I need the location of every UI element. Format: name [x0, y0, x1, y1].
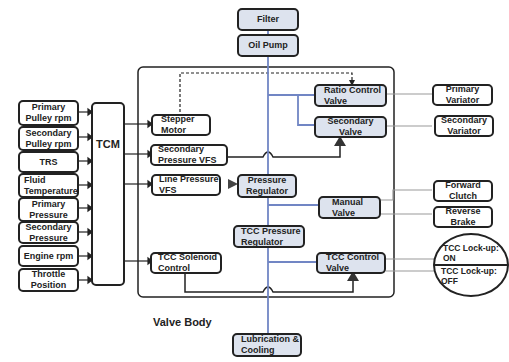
- sensor-primary-pressure: Primary Pressure: [18, 197, 79, 222]
- sensor-throttle-position: Throttle Position: [18, 268, 79, 292]
- tcm-label: TCM: [96, 139, 120, 150]
- reverse-brake: Reverse Brake: [433, 206, 493, 228]
- tcc-solenoid-control: TCC Solenoid Control: [150, 252, 222, 274]
- valve-body-label: Valve Body: [153, 316, 212, 328]
- stepper-motor-label: Stepper Motor: [161, 114, 209, 136]
- sensor-label: Secondary Pressure: [20, 222, 77, 244]
- reverse-brake-label: Reverse Brake: [435, 206, 491, 228]
- sensor-label: Engine rpm: [24, 251, 74, 262]
- tcc-pressure-regulator-label: TCC Pressure Regulator: [241, 226, 303, 248]
- oil-pump: Oil Pump: [237, 34, 299, 57]
- sensor-secondary-pulley-rpm: Secondary Pulley rpm: [18, 126, 79, 151]
- manual-valve: Manual Valve: [318, 196, 381, 219]
- tcc-solenoid-control-label: TCC Solenoid Control: [158, 252, 220, 274]
- forward-clutch-label: Forward Clutch: [435, 180, 491, 202]
- tcc-lockup-on: TCC Lock-up: ON: [443, 243, 507, 263]
- sensor-label: Throttle Position: [20, 269, 77, 291]
- lubrication-cooling: Lubrication & Cooling: [232, 333, 302, 357]
- stepper-motor: Stepper Motor: [151, 114, 211, 136]
- ratio-control-valve-label: Ratio Control Valve: [324, 85, 385, 107]
- filter-label: Filter: [257, 14, 279, 25]
- sensor-label: Primary Pulley rpm: [20, 102, 77, 124]
- secondary-valve-label: Secondary Valve: [316, 116, 385, 138]
- tcc-lockup-off: TCC Lock-up: OFF: [441, 266, 505, 286]
- ratio-control-valve: Ratio Control Valve: [314, 84, 387, 107]
- secondary-valve: Secondary Valve: [314, 116, 387, 138]
- tcc-control-valve: TCC Control Valve: [316, 252, 386, 274]
- sensor-primary-pulley-rpm: Primary Pulley rpm: [18, 100, 79, 126]
- secondary-variator-label: Secondary Variator: [436, 115, 492, 137]
- tcc-pressure-regulator: TCC Pressure Regulator: [233, 225, 305, 248]
- secondary-pressure-vfs-label: Secondary Pressure VFS: [158, 144, 226, 166]
- oil-pump-label: Oil Pump: [248, 40, 288, 51]
- primary-variator: Primary Variator: [432, 84, 493, 106]
- line-pressure-vfs: Line Pressure VFS: [151, 174, 221, 196]
- sensor-engine-rpm: Engine rpm: [18, 245, 79, 267]
- tcc-control-valve-label: TCC Control Valve: [326, 252, 384, 274]
- sensor-trs: TRS: [18, 151, 79, 173]
- tcm-block: TCM: [91, 102, 125, 286]
- secondary-variator: Secondary Variator: [434, 115, 494, 137]
- sensor-label: Secondary Pulley rpm: [20, 128, 77, 150]
- manual-valve-label: Manual Valve: [332, 197, 379, 219]
- sensor-fluid-temperature: Fluid Temperature: [18, 173, 79, 198]
- sensor-label: Fluid Temperature: [24, 175, 78, 197]
- lubrication-cooling-label: Lubrication & Cooling: [241, 334, 300, 356]
- sensor-secondary-pressure: Secondary Pressure: [18, 221, 79, 244]
- secondary-pressure-vfs: Secondary Pressure VFS: [150, 144, 228, 166]
- line-pressure-vfs-label: Line Pressure VFS: [159, 174, 219, 196]
- pressure-regulator: Pressure Regulator: [237, 174, 297, 198]
- pressure-regulator-label: Pressure Regulator: [239, 175, 295, 197]
- primary-variator-label: Primary Variator: [434, 84, 491, 106]
- filter: Filter: [237, 8, 299, 31]
- sensor-label: Primary Pressure: [20, 199, 77, 221]
- forward-clutch: Forward Clutch: [433, 180, 493, 202]
- sensor-label: TRS: [40, 157, 58, 168]
